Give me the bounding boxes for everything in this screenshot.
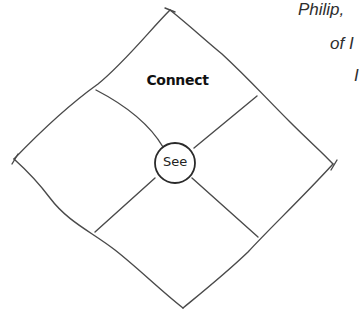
divider-top-left — [96, 90, 163, 147]
corner-tick-top — [165, 8, 175, 12]
side-text-line: Philip, — [298, 0, 344, 20]
divider-bottom-left — [95, 178, 155, 232]
quadrant-label-connect: Connect — [140, 72, 215, 88]
center-label-see: See — [156, 154, 194, 169]
diamond-outline-bottom-left — [14, 159, 183, 308]
side-text-line: I — [354, 66, 359, 86]
side-text-line: of I — [330, 34, 354, 54]
divider-bottom-right — [192, 178, 258, 237]
divider-top-right — [194, 96, 257, 148]
diamond-outline-bottom-right — [183, 164, 333, 308]
